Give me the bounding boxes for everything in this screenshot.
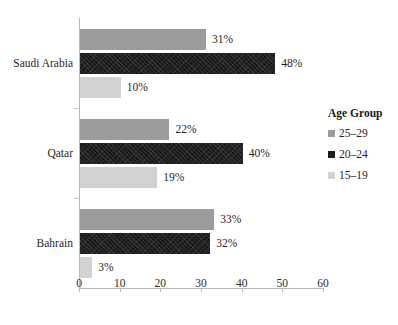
bar [80, 257, 92, 278]
bar [80, 29, 206, 50]
legend-item-label: 25–29 [339, 127, 368, 139]
bar-value-label: 3% [92, 257, 113, 278]
legend-swatch-25-29 [328, 130, 335, 137]
x-axis-tick-label: 0 [76, 277, 82, 289]
bar-value-label: 40% [243, 143, 270, 164]
bar [80, 233, 210, 254]
x-axis-tick-label: 40 [236, 277, 248, 289]
plot-area: 31%48%10%22%40%19%33%32%3% [79, 18, 323, 288]
legend-item-group: 25–2920–2415–19 [328, 127, 398, 181]
legend-title: Age Group [328, 107, 398, 119]
category-axis-tick [74, 108, 79, 109]
x-axis-tick-label: 10 [114, 277, 126, 289]
x-axis-tick-label: 60 [317, 277, 329, 289]
bar-value-label: 33% [214, 209, 241, 230]
bar-value-label: 22% [169, 119, 196, 140]
category-label: Bahrain [37, 237, 73, 249]
legend-item-label: 20–24 [339, 148, 368, 160]
bar [80, 119, 169, 140]
x-axis-tick-label: 20 [155, 277, 167, 289]
legend-swatch-15-19 [328, 172, 335, 179]
x-axis-tick-label: 50 [277, 277, 289, 289]
bar-value-label: 32% [210, 233, 237, 254]
legend: Age Group 25–2920–2415–19 [328, 107, 398, 190]
legend-item[interactable]: 20–24 [328, 148, 398, 160]
legend-swatch-20-24 [328, 151, 335, 158]
legend-item[interactable]: 25–29 [328, 127, 398, 139]
category-label: Qatar [47, 147, 73, 159]
bar-value-label: 10% [121, 77, 148, 98]
legend-item[interactable]: 15–19 [328, 169, 398, 181]
bar-value-label: 19% [157, 167, 184, 188]
bar [80, 143, 243, 164]
legend-item-label: 15–19 [339, 169, 368, 181]
bar [80, 209, 214, 230]
x-axis-tick-label: 30 [195, 277, 207, 289]
bar-chart: 31%48%10%22%40%19%33%32%3% Saudi ArabiaQ… [0, 0, 398, 325]
bar [80, 77, 121, 98]
category-axis-tick [74, 198, 79, 199]
bar-value-label: 31% [206, 29, 233, 50]
bar [80, 167, 157, 188]
category-label: Saudi Arabia [13, 57, 73, 69]
bar-value-label: 48% [275, 53, 302, 74]
bar [80, 53, 275, 74]
